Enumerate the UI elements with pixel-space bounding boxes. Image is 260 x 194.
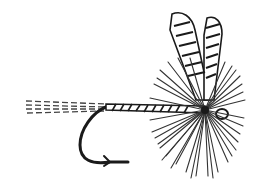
tail: [26, 101, 106, 113]
hook: [80, 106, 128, 166]
fishing-fly-drawing: [0, 0, 260, 194]
fly-illustration: [0, 0, 260, 194]
